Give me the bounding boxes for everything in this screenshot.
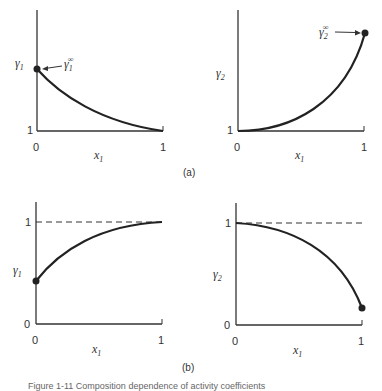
panel-a-right: γ2∞ γ2 1 0 1 x1 <box>216 10 369 164</box>
x-tick-1: 1 <box>361 141 367 153</box>
x-tick-0: 0 <box>32 334 38 346</box>
arrow-icon <box>355 30 361 36</box>
y-axis-label: γ2 <box>216 66 225 82</box>
panel-label-a: (a) <box>183 167 195 178</box>
y-axis-label: γ1 <box>15 56 24 72</box>
endpoint-marker <box>362 30 369 37</box>
x-tick-0: 0 <box>234 141 240 153</box>
y-tick-1: 1 <box>225 217 231 229</box>
y-tick-0: 0 <box>24 318 30 330</box>
y-tick-0: 0 <box>224 319 230 331</box>
y-tick-1: 1 <box>25 216 31 228</box>
panel-b-left: γ1 1 0 0 1 x1 <box>13 202 164 358</box>
y-axis-label: γ2 <box>213 267 222 283</box>
x-axis-label: x1 <box>93 148 103 164</box>
panel-b-right: γ2 1 0 0 1 x1 <box>213 203 366 359</box>
endpoint-marker <box>33 278 40 285</box>
panel-a-left: γ1∞ γ1 1 0 1 x1 <box>15 10 166 164</box>
gamma1-inf-label: γ1∞ <box>64 55 74 73</box>
x-axis-label: x1 <box>91 342 101 358</box>
y-tick-1: 1 <box>27 124 33 136</box>
y-axis-label: γ1 <box>13 263 22 279</box>
arrow-icon <box>42 66 48 71</box>
gamma2-inf-label: γ2∞ <box>319 23 329 41</box>
x-tick-0: 0 <box>232 335 238 347</box>
x-tick-1: 1 <box>160 141 166 153</box>
panel-label-b: (b) <box>182 362 194 373</box>
x-tick-1: 1 <box>158 334 164 346</box>
x-tick-1: 1 <box>358 335 364 347</box>
y-tick-1: 1 <box>227 124 233 136</box>
endpoint-marker <box>34 66 41 73</box>
figure-caption: Figure 1-11 Composition dependence of ac… <box>28 381 265 391</box>
x-tick-0: 0 <box>33 141 39 153</box>
x-axis-label: x1 <box>292 343 302 359</box>
x-axis-label: x1 <box>294 148 304 164</box>
endpoint-marker <box>359 305 366 312</box>
